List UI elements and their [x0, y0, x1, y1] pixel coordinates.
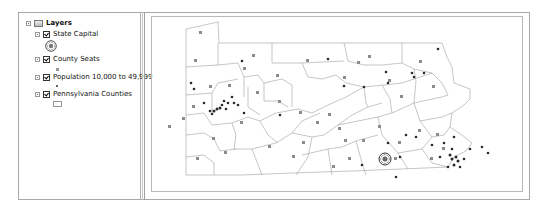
panel-divider[interactable] [142, 12, 143, 200]
toc-root-label: Layers [46, 19, 72, 27]
toc-root-layers[interactable]: Layers [26, 18, 72, 28]
hollow-polygon-icon [53, 101, 62, 107]
layer-label: Pennsylvania Counties [53, 90, 132, 98]
county-boundaries [186, 22, 472, 175]
gray-square-point-icon [56, 68, 59, 71]
layer-label: County Seats [53, 55, 100, 63]
toc-layer-county-seats[interactable]: County Seats [35, 54, 100, 64]
layers-icon [34, 20, 43, 27]
collapse-icon[interactable] [35, 32, 40, 37]
layer-visibility-checkbox[interactable] [43, 31, 50, 38]
toc-layer-state-capital[interactable]: State Capital [35, 29, 98, 39]
collapse-icon[interactable] [35, 92, 40, 97]
table-of-contents-panel: Layers State Capital County Seats Popula… [18, 12, 141, 200]
toc-layer-pennsylvania-counties[interactable]: Pennsylvania Counties [35, 89, 132, 99]
population-points-layer [190, 48, 490, 179]
capital-star-circle-icon [45, 40, 57, 52]
collapse-icon[interactable] [35, 57, 40, 62]
black-dot-point-icon [56, 85, 58, 87]
map-view[interactable] [144, 12, 530, 200]
layer-label: State Capital [53, 30, 98, 38]
toc-layer-population[interactable]: Population 10,000 to 49,999 [35, 72, 152, 82]
state-capital-harrisburg [379, 153, 391, 165]
county-seats-layer [168, 31, 445, 168]
collapse-icon[interactable] [35, 75, 40, 80]
map-data-frame[interactable] [151, 16, 523, 192]
layer-visibility-checkbox[interactable] [43, 91, 50, 98]
layer-visibility-checkbox[interactable] [43, 74, 50, 81]
collapse-icon[interactable] [26, 21, 31, 26]
pennsylvania-counties-map[interactable] [152, 17, 524, 193]
layer-label: Population 10,000 to 49,999 [53, 73, 152, 81]
layer-visibility-checkbox[interactable] [43, 56, 50, 63]
